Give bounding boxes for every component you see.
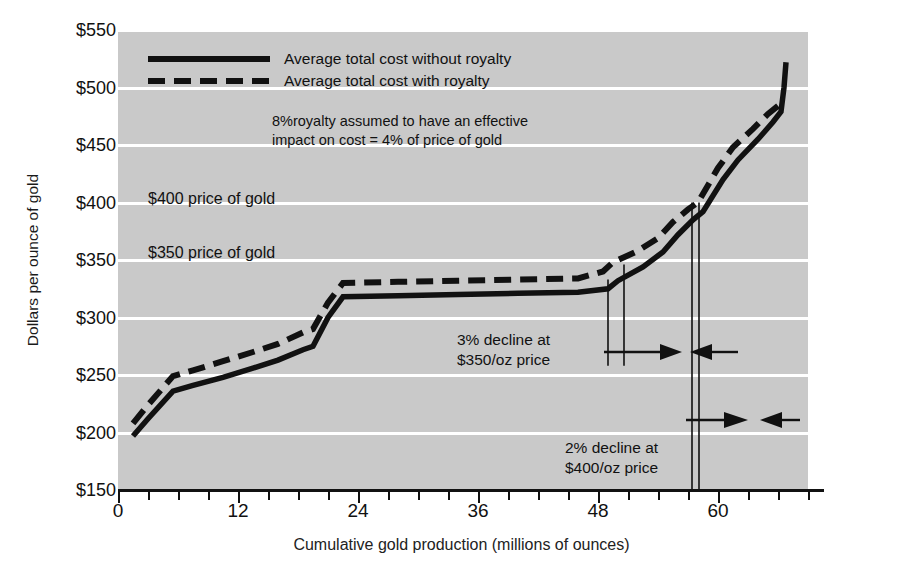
x-axis-minor-tick <box>208 492 210 500</box>
x-axis-minor-tick <box>628 492 630 500</box>
annotation-arrows <box>604 344 800 428</box>
arrow-left-350 <box>604 344 682 360</box>
x-axis-minor-tick <box>658 492 660 500</box>
x-axis-minor-tick <box>568 492 570 500</box>
note-price-400: $400 price of gold <box>148 189 275 209</box>
x-axis-tick-label: 12 <box>227 500 248 522</box>
x-axis-tick-label: 60 <box>707 500 728 522</box>
note-price-350: $350 price of gold <box>148 243 275 263</box>
x-axis-minor-tick <box>808 492 810 500</box>
x-axis-minor-tick <box>298 492 300 500</box>
x-axis-minor-tick <box>538 492 540 500</box>
x-axis-tick-label: 24 <box>347 500 368 522</box>
x-axis-minor-tick <box>418 492 420 500</box>
x-axis-minor-tick <box>268 492 270 500</box>
x-axis-tick-label: 48 <box>587 500 608 522</box>
legend-item-with-royalty: Average total cost with royalty <box>148 70 511 92</box>
x-axis-minor-tick <box>388 492 390 500</box>
chart-root: $550$500$450$400$350$300$250$200$150 Dol… <box>0 0 923 579</box>
note-decline-350: 3% decline at $350/oz price <box>457 330 550 370</box>
x-axis-tick-label: 36 <box>467 500 488 522</box>
x-axis-minor-tick <box>748 492 750 500</box>
arrow-right-400 <box>760 412 800 428</box>
x-axis-title: Cumulative gold production (millions of … <box>0 536 923 554</box>
legend: Average total cost without royalty Avera… <box>148 48 511 92</box>
x-axis-minor-tick <box>688 492 690 500</box>
x-axis-minor-tick <box>448 492 450 500</box>
x-axis-minor-tick <box>328 492 330 500</box>
legend-item-without-royalty: Average total cost without royalty <box>148 48 511 70</box>
x-axis-tick-label: 0 <box>113 500 124 522</box>
x-axis-minor-tick <box>178 492 180 500</box>
arrow-right-350 <box>690 344 738 360</box>
note-royalty-assumption: 8%royalty assumed to have an effective i… <box>272 112 528 149</box>
x-axis-minor-tick <box>508 492 510 500</box>
note-decline-400: 2% decline at $400/oz price <box>565 438 658 478</box>
legend-swatch-dashed <box>148 70 270 92</box>
legend-swatch-solid <box>148 48 270 70</box>
legend-label-without-royalty: Average total cost without royalty <box>284 50 511 68</box>
x-axis-minor-tick <box>148 492 150 500</box>
legend-label-with-royalty: Average total cost with royalty <box>284 72 490 90</box>
x-axis-minor-tick <box>778 492 780 500</box>
arrow-left-400 <box>686 412 748 428</box>
